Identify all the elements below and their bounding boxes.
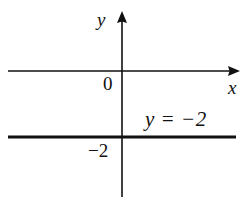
graph-canvas <box>0 0 248 197</box>
y-tick-label-minus-two: −2 <box>88 141 108 160</box>
equation-label: y = −2 <box>145 109 207 130</box>
coordinate-plane-figure: y x 0 −2 y = −2 <box>0 0 248 197</box>
origin-label: 0 <box>103 74 113 93</box>
y-axis-arrowhead <box>117 11 127 23</box>
y-axis-label: y <box>97 10 105 29</box>
x-axis-arrowhead <box>228 66 240 76</box>
x-axis-label: x <box>228 78 236 97</box>
